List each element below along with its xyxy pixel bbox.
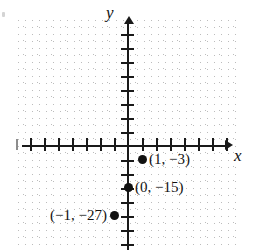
x-axis-tick-edge-faint — [16, 139, 18, 150]
x-axis-line — [22, 145, 227, 147]
x-axis-tick-negative-4 — [72, 138, 74, 151]
y-axis-tick-positive-1 — [121, 132, 134, 134]
y-axis-tick-negative-1 — [121, 160, 134, 162]
x-axis-tick-positive-2 — [156, 138, 158, 151]
x-axis-tick-negative-5 — [58, 138, 60, 151]
data-point-label-2: (−1, −27) — [50, 207, 107, 224]
y-axis-tick-positive-2 — [121, 118, 134, 120]
scan-artifact — [2, 12, 5, 17]
data-point-label-0: (1, −3) — [149, 151, 190, 168]
x-axis-tick-positive-5 — [198, 138, 200, 151]
data-point-0 — [138, 155, 147, 164]
x-axis-tick-positive-1 — [142, 138, 144, 151]
y-axis-tick-negative-6 — [121, 230, 134, 232]
data-point-2 — [110, 211, 119, 220]
x-axis-tick-negative-3 — [86, 138, 88, 151]
y-axis-tick-negative-2 — [121, 174, 134, 176]
x-axis-tick-negative-7 — [30, 138, 32, 151]
data-point-label-1: (0, −15) — [135, 179, 183, 196]
x-axis-tick-negative-1 — [114, 138, 116, 151]
x-axis-tick-positive-4 — [184, 138, 186, 151]
y-axis-arrowhead-icon — [124, 16, 134, 24]
y-axis-tick-negative-7 — [121, 244, 134, 246]
y-axis-tick-positive-3 — [121, 104, 134, 106]
x-axis-tick-positive-6 — [212, 138, 214, 151]
y-axis-tick-positive-8 — [121, 34, 134, 36]
data-point-1 — [124, 183, 133, 192]
x-axis-label: x — [234, 146, 242, 166]
y-axis-tick-negative-5 — [121, 216, 134, 218]
x-axis-tick-positive-7 — [226, 138, 228, 151]
y-axis-tick-positive-5 — [121, 76, 134, 78]
y-axis-tick-positive-4 — [121, 90, 134, 92]
x-axis-tick-negative-6 — [44, 138, 46, 151]
y-axis-label: y — [106, 3, 114, 23]
y-axis-tick-negative-4 — [121, 202, 134, 204]
y-axis-tick-positive-7 — [121, 48, 134, 50]
x-axis-tick-negative-2 — [100, 138, 102, 151]
coordinate-plane-figure: x y (1, −3)(0, −15)(−1, −27) — [0, 0, 253, 250]
x-axis-tick-positive-3 — [170, 138, 172, 151]
y-axis-tick-positive-6 — [121, 62, 134, 64]
